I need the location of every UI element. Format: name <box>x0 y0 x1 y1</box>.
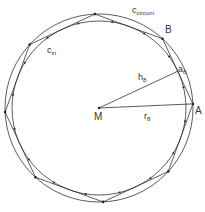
tangent-dot <box>13 128 15 130</box>
tangent-dot <box>111 21 113 23</box>
vertex-dot <box>34 176 37 179</box>
vertex-dot <box>167 170 170 173</box>
tangent-dot <box>47 37 49 39</box>
tangent-dot <box>85 193 87 195</box>
tangent-dot <box>184 120 186 122</box>
label-point-B: B <box>165 24 172 35</box>
tangent-dot <box>119 192 121 194</box>
polygon-circle-diagram: ccircum cin B A M r8 h8 a8 <box>0 0 205 212</box>
label-c-circum: ccircum <box>132 5 154 16</box>
tangent-dot <box>12 94 14 96</box>
tangent-dot <box>53 181 55 183</box>
vertex-dot <box>4 111 7 114</box>
label-r8: r8 <box>144 111 151 122</box>
vertex-dot <box>94 13 97 16</box>
label-c-in: cin <box>47 45 56 56</box>
tangent-dot <box>28 158 30 160</box>
tangent-dot <box>168 56 170 58</box>
label-a8: a8 <box>178 64 187 75</box>
tangent-dot <box>149 177 151 179</box>
geometry <box>4 13 194 203</box>
tangent-dot <box>77 22 79 24</box>
vertex-dot <box>161 37 164 40</box>
vertex-dot <box>102 201 105 204</box>
tangent-dot <box>172 152 174 154</box>
vertex-dot <box>28 43 31 46</box>
tangent-dot <box>183 86 185 88</box>
label-point-A: A <box>195 105 202 116</box>
label-h8: h8 <box>138 72 147 83</box>
label-center-M: M <box>94 111 102 122</box>
tangent-dot <box>24 62 26 64</box>
tangent-dot <box>143 33 145 35</box>
radius-r8 <box>99 104 193 108</box>
